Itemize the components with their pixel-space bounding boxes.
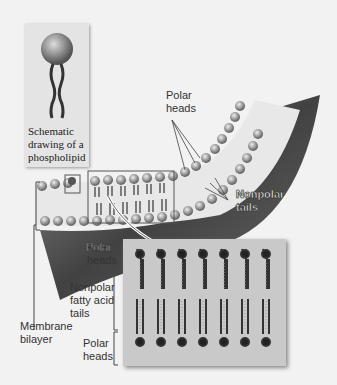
label-line: Polar: [86, 241, 112, 254]
label-line: heads: [87, 254, 117, 267]
label-line: fatty acid: [70, 294, 115, 307]
label-nonpolar-tails: Nonpolar tails: [236, 188, 284, 214]
label-detail-polar-heads-top: Polar: [86, 241, 112, 254]
label-line: heads: [166, 102, 196, 115]
molecular-detail-icon: [123, 239, 286, 366]
label-detail-polar-heads-bottom: Polar heads: [83, 337, 113, 363]
label-line: Membrane: [20, 320, 73, 333]
label-line: heads: [83, 350, 113, 363]
label-line: Nonpolar: [236, 188, 284, 201]
label-line: Polar: [166, 89, 196, 102]
label-line: bilayer: [20, 333, 73, 346]
label-detail-nonpolar-tails: Nonpolar fatty acid tails: [70, 281, 115, 320]
label-line: Nonpolar: [70, 281, 115, 294]
label-membrane-bilayer: Membrane bilayer: [20, 320, 73, 346]
detail-molecular-view: [123, 239, 286, 366]
label-line: Polar: [83, 337, 113, 350]
label-polar-heads: Polar heads: [166, 89, 196, 115]
label-line: tails: [70, 307, 115, 320]
label-detail-polar-heads-top-2: heads: [87, 254, 117, 267]
label-line: tails: [236, 201, 284, 214]
